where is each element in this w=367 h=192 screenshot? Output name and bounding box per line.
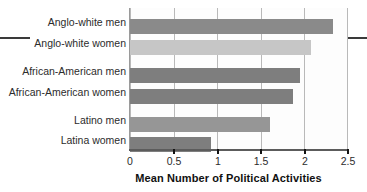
x-tick-label-0-5: 0.5 [167,155,182,167]
x-axis-title: Mean Number of Political Activities [0,172,367,184]
plot-area [130,8,348,149]
x-tick-label-2-5: 2.5 [341,155,356,167]
x-tick-2 [304,149,306,154]
y-axis-line [129,8,130,149]
x-tick-label-1: 1 [215,155,221,167]
bar-latino-men [130,117,270,132]
gridline-2-5 [347,8,348,149]
x-tick-label-1-5: 1.5 [254,155,269,167]
category-label-latina-women: Latina women [61,135,126,146]
x-tick-0-5 [173,149,175,154]
category-label-latino-men: Latino men [74,115,126,126]
category-axis-labels: Anglo-white men Anglo-white women Africa… [0,0,126,150]
bar-african-american-men [130,68,300,83]
x-tick-label-2: 2 [302,155,308,167]
bar-anglo-white-men [130,19,333,34]
x-axis-line [129,149,349,151]
x-axis-title-text: Mean Number of Political Activities [45,172,321,184]
category-label-african-american-women: African-American women [9,87,126,98]
bar-chart-figure: Anglo-white men Anglo-white women Africa… [0,0,367,192]
x-tick-label-0: 0 [127,155,133,167]
x-tick-1-5 [260,149,262,154]
category-label-african-american-men: African-American men [22,66,126,77]
bar-anglo-white-women [130,40,311,55]
x-tick-1 [217,149,219,154]
x-tick-2-5 [347,149,349,154]
category-label-anglo-white-men: Anglo-white men [48,17,126,28]
bar-african-american-women [130,89,293,104]
category-label-anglo-white-women: Anglo-white women [34,38,126,49]
